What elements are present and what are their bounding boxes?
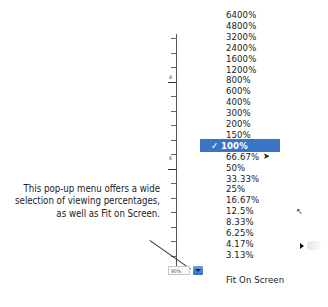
arrow-pointer-icon: ↖ xyxy=(296,206,303,216)
ruler-tick xyxy=(171,53,177,54)
caption: This pop-up menu offers a wide selection… xyxy=(0,183,160,220)
ruler-tick xyxy=(171,125,177,126)
ruler-tick xyxy=(168,169,177,170)
zoom-popup-button[interactable] xyxy=(193,266,203,275)
ruler-tick xyxy=(168,82,177,83)
ruler-tick xyxy=(171,227,177,228)
ruler-tick xyxy=(171,198,177,199)
caption-line: selection of viewing percentages, xyxy=(0,195,160,207)
ruler-tick xyxy=(171,183,177,184)
ruler-tick xyxy=(171,38,177,39)
ruler-tick xyxy=(171,241,177,242)
ruler-tick xyxy=(171,67,177,68)
arrow-pointer-icon: ➤ xyxy=(263,151,270,161)
scrollbar-thumb[interactable] xyxy=(307,241,321,250)
play-triangle-icon[interactable] xyxy=(300,243,304,249)
ruler-tick xyxy=(171,111,177,112)
ruler-tick xyxy=(171,140,177,141)
zoom-level-field[interactable]: 90% xyxy=(168,266,190,275)
ruler-label: 4 xyxy=(169,74,172,80)
zoom-menu-item-label: 3.13% xyxy=(226,249,254,260)
ruler-tick xyxy=(171,96,177,97)
vertical-ruler xyxy=(176,34,177,266)
fit-on-screen-item[interactable]: Fit On Screen xyxy=(205,273,285,286)
zoom-popup-menu: 6400%4800%3200%2400%1600%1200%800%600%40… xyxy=(205,8,285,302)
caption-line: as well as Fit on Screen. xyxy=(0,208,160,220)
ruler-tick xyxy=(171,212,177,213)
ruler-label: 6 xyxy=(169,155,172,161)
zoom-menu-item[interactable]: 3.13% xyxy=(205,248,285,261)
caption-line: This pop-up menu offers a wide xyxy=(0,183,160,195)
